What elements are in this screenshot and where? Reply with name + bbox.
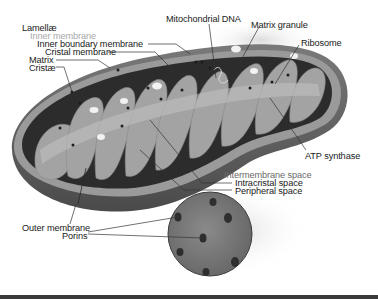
- ribosome-dot: [72, 144, 75, 147]
- mitochondrion-diagram: Lamellæ Inner membrane Inner boundary me…: [0, 0, 378, 299]
- ribosome-dot: [271, 81, 274, 84]
- leader-outer-membrane: [70, 204, 76, 224]
- ribosome-dot: [181, 89, 184, 92]
- granule: [152, 83, 162, 90]
- porin: [224, 213, 232, 223]
- granule: [120, 98, 128, 104]
- label-cristae: Cristæ: [29, 63, 55, 73]
- granule: [97, 134, 105, 140]
- label-cristal-membrane: Cristal membrane: [45, 47, 116, 57]
- ribosome-dot: [79, 102, 82, 105]
- ribosome-dot: [121, 125, 124, 128]
- porin: [177, 248, 184, 256]
- label-mitochondrial-dna: Mitochondrial DNA: [166, 14, 241, 24]
- porin: [210, 198, 217, 206]
- bottom-border: [0, 295, 378, 299]
- label-ribosome: Ribosome: [301, 38, 342, 48]
- ribosome-dot: [209, 67, 212, 70]
- granule: [231, 46, 241, 53]
- granule: [90, 107, 99, 113]
- porin: [231, 257, 239, 267]
- porin: [203, 268, 210, 276]
- ribosome-dot: [117, 69, 120, 72]
- outer-membrane-disc: [168, 192, 252, 276]
- ribosome-dot: [249, 87, 252, 90]
- label-atp-synthase: ATP synthase: [305, 151, 360, 161]
- ribosome-dot: [59, 127, 62, 130]
- ribosome-dot: [195, 61, 198, 64]
- ribosome-dot: [201, 61, 204, 64]
- ribosome-dot: [160, 98, 163, 101]
- label-peripheral-space: Peripheral space: [235, 186, 302, 196]
- ribosome-dot: [127, 107, 130, 110]
- granule: [250, 68, 258, 74]
- ribosome-dot: [147, 87, 150, 90]
- ribosome-dot: [287, 74, 290, 77]
- label-matrix-granule: Matrix granule: [251, 20, 308, 30]
- label-porins: Porins: [62, 231, 87, 241]
